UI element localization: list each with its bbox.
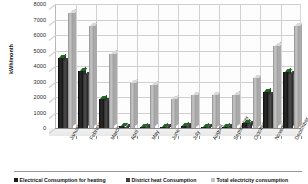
bar — [83, 75, 88, 128]
x-axis-tick-mark — [76, 136, 77, 139]
bar-face — [212, 95, 217, 128]
y-axis-tick-label: 6000 — [2, 32, 46, 38]
bar — [150, 85, 155, 128]
y-axis-tick-labels: 800070006000500040003000200010000 — [0, 0, 46, 140]
x-axis-tick-mark — [219, 136, 220, 139]
bar — [247, 124, 252, 128]
bar — [165, 127, 170, 128]
bar-face — [109, 54, 114, 128]
y-axis-tick-label: 1000 — [2, 110, 46, 116]
x-axis-tick-mark — [240, 136, 241, 139]
bar — [212, 95, 217, 128]
bar-face — [83, 75, 88, 128]
x-axis-tick-mark — [137, 136, 138, 139]
y-axis-tick-label: 2000 — [2, 94, 46, 100]
bar — [186, 126, 191, 128]
bar-face — [191, 95, 196, 128]
bar-group — [158, 4, 179, 128]
x-axis-tick-labels: JanuaryFebruaryMarchAprilMayJuneJulyAugu… — [49, 138, 301, 172]
bar-group — [178, 4, 199, 128]
bar — [227, 127, 232, 128]
x-axis-tick-mark — [260, 136, 261, 139]
legend-item: Total electricity consumption — [211, 174, 302, 184]
bar — [58, 58, 63, 128]
bar — [201, 127, 206, 128]
bar-face — [130, 83, 135, 128]
x-axis-tick-mark — [281, 136, 282, 139]
legend-swatch-icon — [211, 178, 215, 182]
y-axis-tick-label: 7000 — [2, 17, 46, 23]
bar-face — [68, 13, 73, 128]
bar — [206, 127, 211, 128]
bar-face — [294, 26, 299, 128]
bar-face — [273, 46, 278, 128]
bar-group — [96, 4, 117, 128]
bar — [68, 13, 73, 128]
bar — [130, 83, 135, 128]
x-axis-tick-mark — [96, 136, 97, 139]
bar-group — [55, 4, 76, 128]
bar — [181, 126, 186, 128]
bar-face — [78, 71, 83, 128]
bar — [294, 26, 299, 128]
bar — [89, 26, 94, 128]
bar-face — [186, 126, 191, 128]
bar — [109, 54, 114, 128]
bar-group — [240, 4, 261, 128]
bar — [78, 71, 83, 128]
bar-face — [232, 95, 237, 128]
bar-face — [58, 58, 63, 128]
bar-group — [137, 4, 158, 128]
bar-side — [299, 23, 302, 127]
bar — [160, 127, 165, 128]
plot-area — [49, 4, 301, 136]
bar-face — [171, 99, 176, 128]
bar-group — [117, 4, 138, 128]
bar-face — [104, 101, 109, 128]
bar-face — [247, 124, 252, 128]
y-axis-tick-label: 0 — [2, 125, 46, 131]
bar — [124, 127, 129, 128]
legend-item-label: Electrical Consumption for heating — [20, 177, 106, 183]
legend-item-label: Total electricity consumption — [217, 177, 289, 183]
bar-face — [227, 127, 232, 128]
bar — [171, 99, 176, 128]
x-axis-tick-mark — [199, 136, 200, 139]
bar-face — [253, 78, 258, 128]
bar — [253, 78, 258, 128]
y-axis-tick-label: 5000 — [2, 48, 46, 54]
bar — [140, 127, 145, 128]
chart-legend: Electrical Consumption for heating Distr… — [14, 171, 302, 183]
bar-face — [63, 61, 68, 128]
legend-item-label: District heat Consumption — [132, 177, 197, 183]
bar-face — [268, 95, 273, 128]
bar-face — [181, 126, 186, 128]
bar — [232, 95, 237, 128]
bar — [191, 95, 196, 128]
bar — [63, 61, 68, 128]
bar — [145, 127, 150, 128]
x-axis-tick-mark — [301, 136, 302, 139]
x-axis-tick-mark — [158, 136, 159, 139]
bar-group — [260, 4, 281, 128]
y-axis-tick-label: 3000 — [2, 79, 46, 85]
bar-group — [76, 4, 97, 128]
y-axis-tick-label: 8000 — [2, 1, 46, 7]
bar — [273, 46, 278, 128]
legend-swatch-icon — [14, 178, 18, 182]
legend-item: Electrical Consumption for heating — [14, 174, 126, 184]
bar-group — [219, 4, 240, 128]
bar-group — [281, 4, 302, 128]
bar — [268, 95, 273, 128]
bar-face — [145, 127, 150, 128]
bar-chart: kWh/month 800070006000500040003000200010… — [0, 0, 308, 183]
legend-item: District heat Consumption — [126, 174, 211, 184]
x-axis-tick-mark — [178, 136, 179, 139]
legend-swatch-icon — [126, 178, 130, 182]
bar — [104, 101, 109, 128]
bar-face — [150, 85, 155, 128]
bar-top — [80, 68, 87, 71]
y-axis-tick-label: 4000 — [2, 63, 46, 69]
bar-face — [89, 26, 94, 128]
bar-group — [199, 4, 220, 128]
